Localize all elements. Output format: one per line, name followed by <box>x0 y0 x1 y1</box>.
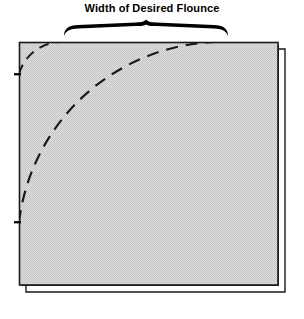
outer-arc-left-tick <box>14 221 21 223</box>
fabric-face <box>20 43 279 286</box>
diagram-canvas <box>0 0 304 319</box>
inner-arc-left-tick <box>14 73 21 75</box>
brace-path <box>64 20 228 36</box>
width-measurement-brace <box>64 20 228 36</box>
flounce-diagram: Width of Desired Flounce <box>0 0 304 319</box>
fabric-panel <box>14 42 285 292</box>
